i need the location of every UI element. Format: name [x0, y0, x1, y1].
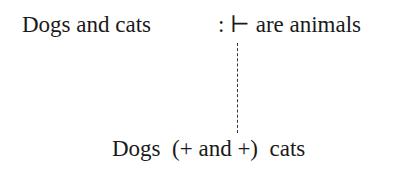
- coordination-structure: Dogs (+ and +) cats: [112, 137, 305, 160]
- turnstile-predicate: : ⊢ are animals: [218, 13, 361, 36]
- premise-subject: Dogs and cats: [22, 13, 151, 36]
- dashed-connector: [237, 43, 238, 133]
